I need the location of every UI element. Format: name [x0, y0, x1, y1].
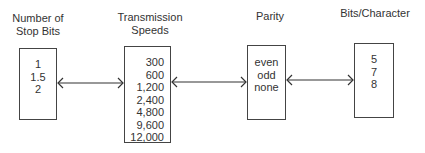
arrow-stopbits-transmission: [58, 78, 123, 88]
connector-arrows: [0, 0, 425, 153]
arrow-transmission-parity: [172, 77, 246, 87]
arrow-parity-bits: [287, 75, 353, 85]
